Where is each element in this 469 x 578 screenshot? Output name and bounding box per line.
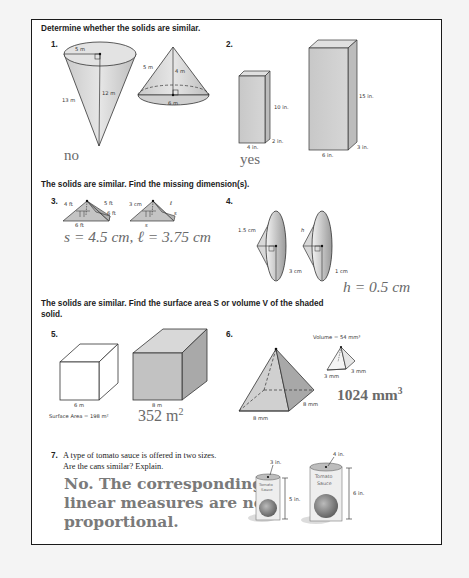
label-small-can-diameter: 3 in. <box>270 459 281 465</box>
label-large-can-diameter: 4 in. <box>333 451 344 457</box>
label-large-can-height: 6 in. <box>353 490 364 496</box>
large-can-label-line1: Tomato <box>315 474 332 479</box>
small-can-label-line2: Sauce <box>261 487 273 492</box>
label-small-can-height: 5 in. <box>289 496 300 502</box>
can-diagram-7 <box>0 0 469 578</box>
large-can-label-line2: Sauce <box>317 481 332 486</box>
